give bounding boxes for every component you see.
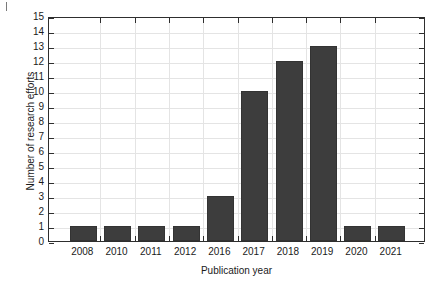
x-tick-label: 2021 [366, 246, 416, 257]
x-axis-title: Publication year [48, 265, 425, 277]
y-axis-title: Number of research efforts [25, 51, 37, 211]
bar-chart-figure: 0123456789101112131415 20082010201120122… [0, 0, 446, 289]
x-axis-tick-labels: 2008201020112012201620172018201920202021 [0, 0, 446, 289]
